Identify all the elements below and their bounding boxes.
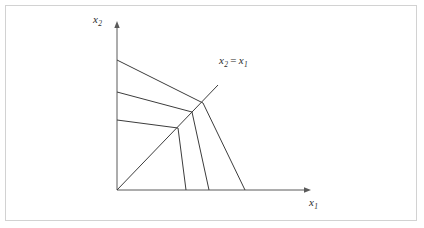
diagonal-right-subscript: 1 [244, 60, 248, 69]
y-axis-arrow-icon [114, 21, 119, 28]
x-axis-arrow-icon [304, 187, 311, 192]
y-axis-label-subscript: 2 [98, 19, 102, 28]
diagonal-equals-operator: = [228, 54, 239, 66]
diagonal-ray-line [117, 85, 218, 190]
x-axis-label: x1 [309, 196, 318, 211]
x-axis-label-subscript: 1 [314, 202, 318, 211]
indifference-curve-diagram [0, 0, 424, 228]
diagonal-equation-label: x2=x1 [219, 54, 248, 69]
y-axis-label: x2 [93, 13, 102, 28]
